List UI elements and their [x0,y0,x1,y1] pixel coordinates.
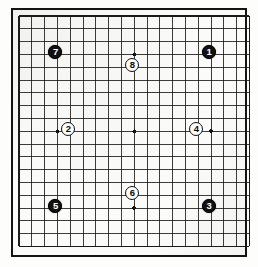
stone-black-3[interactable]: 3 [202,199,216,213]
stone-white-6[interactable]: 6 [125,186,139,200]
stone-move-number: 6 [126,188,138,198]
stone-black-1[interactable]: 1 [202,45,216,59]
stone-move-number: 5 [49,201,61,211]
stone-move-number: 7 [49,48,61,58]
stone-white-4[interactable]: 4 [189,122,203,136]
stone-move-number: 8 [126,60,138,70]
stone-white-8[interactable]: 8 [125,58,139,72]
stone-white-2[interactable]: 2 [61,122,75,136]
stone-black-7[interactable]: 7 [48,45,62,59]
go-board-diagram: 12345678 [0,0,258,267]
stone-layer: 12345678 [0,0,258,267]
stone-move-number: 4 [190,124,202,134]
stone-move-number: 2 [62,124,74,134]
stone-move-number: 3 [203,201,215,211]
stone-black-5[interactable]: 5 [48,199,62,213]
stone-move-number: 1 [203,48,215,58]
